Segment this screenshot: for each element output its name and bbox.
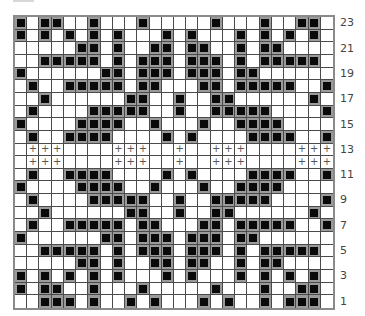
empty-stitch-cell xyxy=(39,232,51,245)
filled-stitch-cell xyxy=(260,169,272,182)
filled-stitch-cell xyxy=(321,106,333,119)
empty-stitch-cell xyxy=(137,118,149,131)
empty-stitch-cell xyxy=(125,55,137,68)
filled-stitch-cell xyxy=(260,80,272,93)
empty-stitch-cell xyxy=(64,257,76,270)
filled-stitch-cell xyxy=(260,118,272,131)
row-label: 23 xyxy=(340,17,354,29)
filled-stitch-cell xyxy=(39,93,51,106)
top-decorative-line xyxy=(13,0,34,2)
empty-stitch-cell xyxy=(223,17,235,30)
filled-stitch-cell xyxy=(137,55,149,68)
empty-stitch-cell xyxy=(174,283,186,296)
empty-stitch-cell xyxy=(284,144,296,157)
filled-stitch-cell xyxy=(88,30,100,43)
plus-stitch-cell: + xyxy=(223,156,235,169)
empty-stitch-cell xyxy=(284,68,296,81)
filled-stitch-cell xyxy=(309,55,321,68)
plus-stitch-cell: + xyxy=(125,144,137,157)
filled-stitch-cell xyxy=(150,219,162,232)
plus-stitch-cell: + xyxy=(113,156,125,169)
empty-stitch-cell xyxy=(150,131,162,144)
filled-stitch-cell xyxy=(198,245,210,258)
empty-stitch-cell xyxy=(39,169,51,182)
empty-stitch-cell xyxy=(125,30,137,43)
empty-stitch-cell xyxy=(76,17,88,30)
filled-stitch-cell xyxy=(27,219,39,232)
empty-stitch-cell xyxy=(198,144,210,157)
empty-stitch-cell xyxy=(272,295,284,308)
empty-stitch-cell xyxy=(150,156,162,169)
empty-stitch-cell xyxy=(186,219,198,232)
filled-stitch-cell xyxy=(272,80,284,93)
filled-stitch-cell xyxy=(296,295,308,308)
filled-stitch-cell xyxy=(162,245,174,258)
empty-stitch-cell xyxy=(137,270,149,283)
filled-stitch-cell xyxy=(162,68,174,81)
filled-stitch-cell xyxy=(88,194,100,207)
plus-stitch-cell: + xyxy=(174,144,186,157)
filled-stitch-cell xyxy=(247,80,259,93)
empty-stitch-cell xyxy=(174,245,186,258)
filled-stitch-cell xyxy=(211,17,223,30)
filled-stitch-cell xyxy=(125,93,137,106)
plus-stitch-cell: + xyxy=(321,156,333,169)
empty-stitch-cell xyxy=(272,93,284,106)
filled-stitch-cell xyxy=(272,219,284,232)
empty-stitch-cell xyxy=(125,219,137,232)
empty-stitch-cell xyxy=(64,17,76,30)
empty-stitch-cell xyxy=(52,118,64,131)
empty-stitch-cell xyxy=(101,156,113,169)
empty-stitch-cell xyxy=(101,30,113,43)
empty-stitch-cell xyxy=(125,68,137,81)
empty-stitch-cell xyxy=(247,55,259,68)
empty-stitch-cell xyxy=(198,283,210,296)
filled-stitch-cell xyxy=(284,295,296,308)
empty-stitch-cell xyxy=(113,17,125,30)
filled-stitch-cell xyxy=(88,169,100,182)
empty-stitch-cell xyxy=(186,17,198,30)
empty-stitch-cell xyxy=(15,257,27,270)
empty-stitch-cell xyxy=(101,17,113,30)
empty-stitch-cell xyxy=(223,30,235,43)
empty-stitch-cell xyxy=(186,156,198,169)
empty-stitch-cell xyxy=(150,93,162,106)
filled-stitch-cell xyxy=(272,169,284,182)
empty-stitch-cell xyxy=(296,30,308,43)
filled-stitch-cell xyxy=(113,30,125,43)
empty-stitch-cell xyxy=(309,42,321,55)
empty-stitch-cell xyxy=(272,17,284,30)
filled-stitch-cell xyxy=(198,118,210,131)
empty-stitch-cell xyxy=(162,295,174,308)
empty-stitch-cell xyxy=(113,283,125,296)
plus-icon: + xyxy=(139,157,147,167)
empty-stitch-cell xyxy=(235,93,247,106)
empty-stitch-cell xyxy=(174,68,186,81)
empty-stitch-cell xyxy=(150,30,162,43)
filled-stitch-cell xyxy=(52,295,64,308)
empty-stitch-cell xyxy=(76,283,88,296)
empty-stitch-cell xyxy=(186,295,198,308)
knitting-chart-grid: ++++++++++++++++++++++++++ xyxy=(13,15,335,310)
filled-stitch-cell xyxy=(235,194,247,207)
empty-stitch-cell xyxy=(162,17,174,30)
filled-stitch-cell xyxy=(260,42,272,55)
filled-stitch-cell xyxy=(235,118,247,131)
filled-stitch-cell xyxy=(260,17,272,30)
filled-stitch-cell xyxy=(101,232,113,245)
empty-stitch-cell xyxy=(52,169,64,182)
empty-stitch-cell xyxy=(321,257,333,270)
empty-stitch-cell xyxy=(76,194,88,207)
filled-stitch-cell xyxy=(198,80,210,93)
empty-stitch-cell xyxy=(52,207,64,220)
empty-stitch-cell xyxy=(272,30,284,43)
plus-stitch-cell: + xyxy=(296,144,308,157)
empty-stitch-cell xyxy=(125,80,137,93)
filled-stitch-cell xyxy=(101,68,113,81)
empty-stitch-cell xyxy=(309,181,321,194)
plus-stitch-cell: + xyxy=(235,144,247,157)
empty-stitch-cell xyxy=(52,30,64,43)
filled-stitch-cell xyxy=(260,181,272,194)
empty-stitch-cell xyxy=(247,93,259,106)
plus-icon: + xyxy=(323,144,331,154)
